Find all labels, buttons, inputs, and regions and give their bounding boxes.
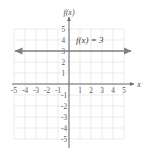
x-tick-label: 4 <box>111 87 115 95</box>
x-tick-label: 3 <box>100 87 104 95</box>
x-tick-label: -2 <box>44 87 50 95</box>
x-tick-label: -5 <box>11 87 17 95</box>
figure-background <box>0 0 152 157</box>
x-tick-label: 1 <box>78 87 82 95</box>
function-equation-label: f(x) = 3 <box>76 35 104 45</box>
x-tick-label: -4 <box>22 87 28 95</box>
function-graph-figure: f(x) x -5 -4 -3 -2 -1 1 2 3 4 5 5 4 3 2 … <box>0 0 152 157</box>
y-tick-label: -3 <box>61 114 67 122</box>
y-tick-label: 5 <box>61 26 65 34</box>
x-axis-label: x <box>136 80 141 89</box>
x-tick-label: 5 <box>122 87 126 95</box>
y-tick-label: 2 <box>61 59 65 67</box>
coordinate-plane-svg: f(x) x -5 -4 -3 -2 -1 1 2 3 4 5 5 4 3 2 … <box>0 0 152 157</box>
x-tick-label: 2 <box>89 87 93 95</box>
y-tick-label: -4 <box>61 125 67 133</box>
y-tick-label: 3 <box>61 48 65 56</box>
y-axis-label: f(x) <box>63 8 74 17</box>
y-tick-label: -5 <box>61 136 67 144</box>
x-tick-label: -3 <box>33 87 39 95</box>
y-tick-label: 1 <box>61 70 65 78</box>
y-tick-label: -1 <box>61 92 67 100</box>
y-tick-label: 4 <box>61 37 65 45</box>
y-tick-label: -2 <box>61 103 67 111</box>
